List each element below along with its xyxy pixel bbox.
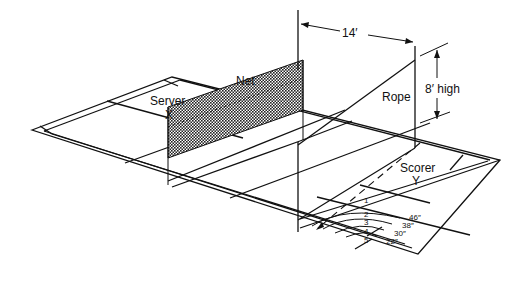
zone-number-3: 3 [364,218,369,227]
server-mark: X [165,108,173,122]
zone-number-1: 1 [364,196,369,205]
distance-dimension: 14′ [301,22,413,44]
distance-label: 14′ [342,26,358,40]
net-label: Net [236,74,255,88]
height-label: 8′ high [425,82,460,96]
zone-radius-5: 22″ [386,237,398,246]
target-zone-numbers: 1 2 3 4 5 [364,196,369,245]
rope-label: Rope [382,90,411,104]
scorer-label: Scorer [400,161,435,175]
scorer-mark: Y [412,174,420,188]
rope-structure [298,10,415,232]
court-diagram: 14′ 8′ high Net Server X Rope Scorer Y 1… [0,0,512,284]
server-label: Server [150,94,185,108]
zone-number-4: 4 [364,227,369,236]
height-dimension: 8′ high [420,43,460,123]
zone-number-5: 5 [364,236,369,245]
